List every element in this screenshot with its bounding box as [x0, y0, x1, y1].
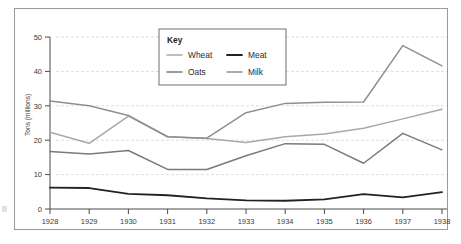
line-chart-svg: 01020304050 1928192919301931193219331934…	[0, 0, 461, 244]
legend-title: Key	[167, 35, 183, 45]
y-axis-title: Tons (millions)	[24, 94, 32, 136]
x-tick-label: 1935	[316, 217, 333, 226]
x-axis-group: 1928192919301931193219331934193519361937…	[42, 209, 451, 226]
chart-figure: 01020304050 1928192919301931193219331934…	[0, 0, 461, 244]
x-tick-label: 1938	[434, 217, 451, 226]
x-tick-label: 1934	[277, 217, 294, 226]
x-tick-label: 1929	[81, 217, 98, 226]
series-line-meat	[50, 188, 442, 201]
legend-label-wheat: Wheat	[188, 50, 213, 60]
legend-label-milk: Milk	[248, 67, 264, 77]
series-line-wheat	[50, 109, 442, 143]
x-tick-label: 1932	[198, 217, 215, 226]
x-tick-label: 1930	[120, 217, 137, 226]
x-tick-label: 1936	[355, 217, 372, 226]
x-tick-label: 1931	[159, 217, 176, 226]
y-tick-label: 50	[34, 33, 42, 42]
y-axis-group: 01020304050	[34, 33, 50, 214]
y-tick-label: 20	[34, 136, 42, 145]
legend-label-meat: Meat	[248, 50, 267, 60]
y-tick-label: 30	[34, 102, 42, 111]
y-axis-title-group: Tons (millions)	[24, 94, 32, 136]
y-tick-label: 10	[34, 170, 42, 179]
x-tick-label: 1928	[42, 217, 59, 226]
x-tick-label: 1933	[238, 217, 255, 226]
y-tick-label: 40	[34, 67, 42, 76]
legend-label-oats: Oats	[188, 67, 206, 77]
y-tick-label: 0	[38, 205, 42, 214]
legend-group: KeyWheatMeatOatsMilk	[159, 29, 286, 85]
x-tick-label: 1937	[394, 217, 411, 226]
series-line-oats	[50, 133, 442, 169]
